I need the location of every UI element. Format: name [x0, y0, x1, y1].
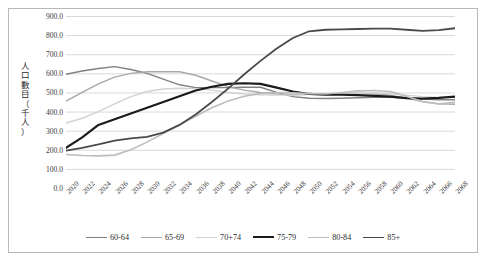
legend-swatch-icon: [196, 237, 217, 238]
legend-swatch-icon: [363, 237, 384, 238]
y-axis-tick: 900.0: [30, 12, 63, 21]
legend-label: 65-69: [165, 233, 184, 242]
y-axis-tick: 100.0: [30, 164, 63, 173]
legend-item-65-69[interactable]: 65-69: [141, 233, 184, 242]
y-axis-tick: 600.0: [30, 69, 63, 78]
y-axis-tick: 200.0: [30, 145, 63, 154]
legend-item-75-79[interactable]: 75-79: [253, 233, 296, 242]
plot-area: [66, 16, 455, 188]
legend-item-60-64[interactable]: 60-64: [86, 233, 129, 242]
series-line-80-84: [66, 91, 455, 156]
chart-screenshot: 人口數目（千人） 900.0800.0700.0600.0500.0400.03…: [0, 0, 487, 263]
legend-label: 75-79: [277, 233, 296, 242]
y-axis-tick-labels: 900.0800.0700.0600.0500.0400.0300.0200.0…: [30, 16, 63, 188]
y-axis-tick: 300.0: [30, 126, 63, 135]
y-axis-tick: 400.0: [30, 107, 63, 116]
y-axis-tick: 500.0: [30, 88, 63, 97]
y-axis-tick: 700.0: [30, 50, 63, 59]
legend-label: 60-64: [110, 233, 129, 242]
chart-legend: 60-6465-6970+7475-7980-8485+: [8, 229, 478, 245]
legend-item-85+[interactable]: 85+: [363, 233, 400, 242]
series-line-85+: [66, 28, 455, 151]
legend-label: 70+74: [220, 233, 241, 242]
legend-swatch-icon: [141, 237, 162, 238]
line-chart-svg: [66, 16, 455, 188]
legend-item-80-84[interactable]: 80-84: [308, 233, 351, 242]
legend-swatch-icon: [253, 236, 274, 238]
legend-label: 85+: [387, 233, 400, 242]
x-axis-tick-labels: 2020202220242026202820302032203420362038…: [66, 190, 455, 224]
legend-label: 80-84: [332, 233, 351, 242]
y-axis-tick: 0.0: [30, 184, 63, 193]
legend-swatch-icon: [86, 237, 107, 238]
legend-swatch-icon: [308, 237, 329, 238]
y-axis-tick: 800.0: [30, 31, 63, 40]
legend-item-70+74[interactable]: 70+74: [196, 233, 241, 242]
